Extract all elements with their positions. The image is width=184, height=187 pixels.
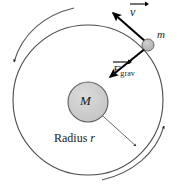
central-mass-label: M [80, 94, 91, 107]
radius-symbol: r [90, 131, 95, 145]
velocity-vector-label: v [130, 6, 135, 18]
gravity-force-label: F grav [113, 64, 135, 78]
radius-word: Radius [54, 131, 87, 145]
velocity-symbol-group: v [130, 6, 135, 18]
orbit-diagram: M m Radiusr v F grav [0, 0, 184, 187]
radius-label: Radiusr [54, 132, 95, 144]
force-symbol: F [113, 63, 120, 77]
force-symbol-group: F [113, 64, 120, 76]
orbiting-mass-label: m [157, 29, 165, 40]
velocity-symbol: v [130, 5, 135, 19]
orbiting-mass-body [142, 39, 154, 51]
rotation-arc-left [14, 8, 74, 62]
force-subscript: grav [120, 69, 135, 78]
